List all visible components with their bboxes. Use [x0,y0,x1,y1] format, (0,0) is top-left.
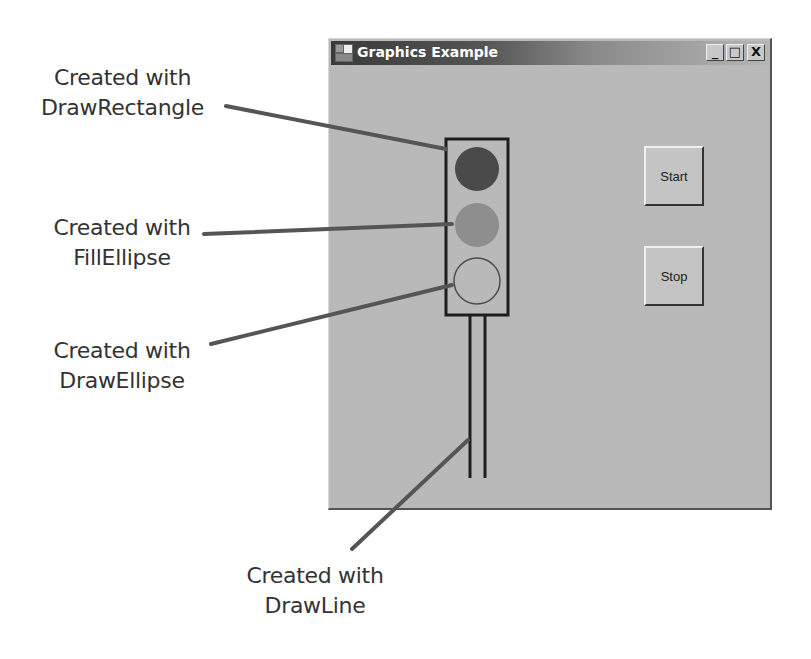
leader-line-draw-line [352,440,468,549]
leader-line-rectangle [226,106,446,149]
drawing-overlay [0,0,811,659]
traffic-light [446,139,508,478]
bottom-light-outline [454,258,500,304]
leader-line-fill-ellipse [204,224,452,234]
top-light-filled [455,147,499,191]
middle-light-filled [455,203,499,247]
leader-line-draw-ellipse [211,285,452,344]
leader-lines [204,106,468,549]
